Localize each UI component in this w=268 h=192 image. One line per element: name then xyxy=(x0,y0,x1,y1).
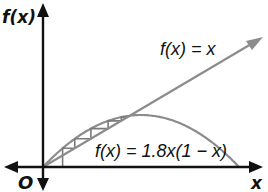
x-axis-right-arrow-icon xyxy=(249,161,263,173)
labels: f(x) x O f(x) = x f(x) = 1.8x(1 − x) xyxy=(2,7,263,192)
x-axis-left-arrow-icon xyxy=(4,161,18,173)
axes xyxy=(4,3,263,191)
curve-label: f(x) = 1.8x(1 − x) xyxy=(95,141,227,161)
y-axis-label: f(x) xyxy=(2,7,36,27)
cobweb-diagram: f(x) x O f(x) = x f(x) = 1.8x(1 − x) xyxy=(0,0,268,192)
x-axis-label: x xyxy=(250,173,263,192)
origin-label: O xyxy=(18,172,33,192)
y-axis-up-arrow-icon xyxy=(37,3,49,17)
identity-line-label: f(x) = x xyxy=(160,39,217,59)
identity-line-arrowhead-icon xyxy=(246,37,263,50)
y-axis-down-arrow-icon xyxy=(37,178,49,191)
